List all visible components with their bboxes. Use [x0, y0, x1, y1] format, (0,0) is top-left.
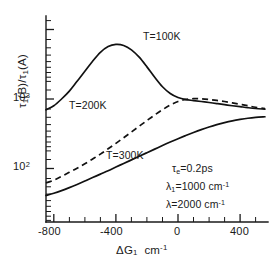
curve-t200k	[46, 99, 265, 183]
x-axis-minor-ticks	[69, 217, 255, 222]
y-axis-minor-ticks	[46, 21, 51, 221]
figure-container: τ1(B)/τ1(A) 103 102 -800 -400 0 400 ΔG1 …	[0, 0, 278, 264]
annotation-tau-e: τe=0.2ps	[172, 163, 213, 176]
x-tick-label-0: 0	[174, 226, 180, 237]
y-tick-label-1e2: 102	[13, 161, 30, 172]
x-axis-title: ΔG1 cm-1	[116, 244, 167, 257]
curve-t300k	[46, 117, 265, 196]
y-axis-title: τ1(B)/τ1(A)	[12, 36, 30, 126]
y-tick-label-1e3: 103	[13, 92, 30, 103]
curve-label-t100k: T=100K	[143, 31, 181, 42]
x-tick-label-neg400: -400	[100, 226, 123, 237]
curve-label-t300k: T=300K	[106, 150, 144, 161]
x-tick-label-400: 400	[230, 226, 249, 237]
curve-label-t200k: T=200K	[69, 100, 107, 111]
x-tick-label-neg800: -800	[38, 226, 61, 237]
annotation-lambda-1: λ1=1000 cm-1	[166, 181, 229, 194]
annotation-lambda: λ=2000 cm-1	[166, 199, 225, 210]
y-axis-major-ticks	[46, 30, 54, 169]
